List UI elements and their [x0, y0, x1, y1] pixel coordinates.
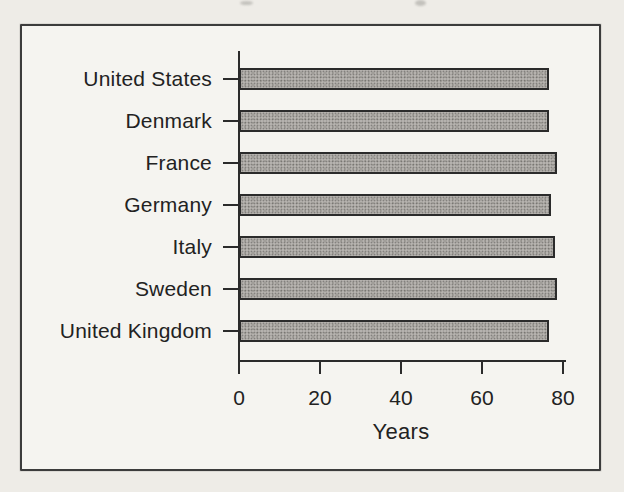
scan-artifact [415, 0, 426, 6]
category-label: Italy [26, 234, 212, 260]
category-label: United Kingdom [26, 318, 212, 344]
bar [239, 194, 551, 216]
category-label: United States [26, 66, 212, 92]
scan-artifact [240, 1, 253, 5]
x-axis-tick-label: 80 [541, 386, 585, 410]
x-axis-tick [238, 362, 240, 374]
x-axis-tick-label: 20 [298, 386, 342, 410]
bar [239, 68, 549, 90]
scanned-bar-chart-page: Years United StatesDenmarkFranceGermanyI… [0, 0, 624, 492]
category-label: Germany [26, 192, 212, 218]
y-axis-tick [223, 288, 239, 290]
category-label: Sweden [26, 276, 212, 302]
x-axis-tick [319, 362, 321, 374]
x-axis-tick-label: 60 [460, 386, 504, 410]
x-axis-tick-label: 40 [379, 386, 423, 410]
y-axis-tick [223, 78, 239, 80]
y-axis-tick [223, 246, 239, 248]
bar [239, 236, 555, 258]
x-axis-tick [562, 362, 564, 374]
x-axis-title: Years [341, 419, 461, 445]
category-label: France [26, 150, 212, 176]
x-axis-tick-label: 0 [217, 386, 261, 410]
x-axis-line [238, 360, 566, 362]
y-axis-tick [223, 120, 239, 122]
x-axis-tick [400, 362, 402, 374]
y-axis-tick [223, 330, 239, 332]
x-axis-tick [481, 362, 483, 374]
bar [239, 152, 557, 174]
category-label: Denmark [26, 108, 212, 134]
bar [239, 320, 549, 342]
y-axis-tick [223, 162, 239, 164]
bar [239, 110, 549, 132]
bar [239, 278, 557, 300]
y-axis-tick [223, 204, 239, 206]
